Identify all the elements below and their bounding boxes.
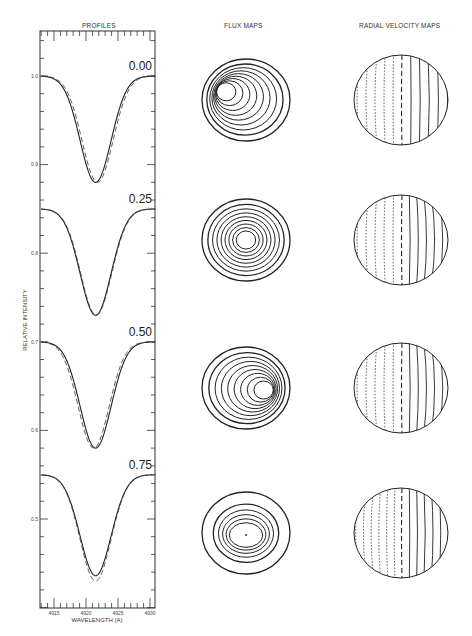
flux-contour bbox=[202, 199, 290, 281]
phase-label: 0.00 bbox=[129, 59, 153, 73]
rv-negative-contour bbox=[357, 195, 360, 285]
rv-positive-contour bbox=[439, 488, 441, 578]
rv-negative-contour bbox=[357, 55, 360, 145]
rv-negative-contour bbox=[375, 195, 377, 285]
rv-zero-line bbox=[402, 488, 403, 578]
flux-contour bbox=[208, 204, 284, 275]
rv-positive-contour bbox=[439, 343, 443, 433]
rv-disk-outline bbox=[354, 488, 448, 578]
profiles-frame bbox=[40, 31, 155, 608]
flux-contour bbox=[254, 381, 273, 399]
rv-zero-line bbox=[402, 343, 403, 433]
rv-negative-contour bbox=[375, 343, 377, 433]
flux-maps bbox=[202, 59, 290, 574]
rv-zero-line bbox=[402, 195, 403, 285]
rv-negative-contour bbox=[384, 55, 385, 145]
profile-dashed-line bbox=[41, 76, 155, 182]
phase-label: 0.25 bbox=[129, 192, 153, 206]
flux-contour bbox=[236, 231, 255, 249]
flux-map bbox=[202, 199, 290, 281]
flux-contour bbox=[215, 357, 282, 419]
y-tick-label: 0.7 bbox=[31, 339, 38, 345]
rv-negative-contour bbox=[393, 343, 394, 433]
profile-dashed-line bbox=[41, 209, 155, 315]
flux-contour bbox=[217, 83, 236, 101]
flux-contour bbox=[225, 220, 267, 259]
rv-negative-contour bbox=[394, 488, 395, 578]
flux-contour bbox=[214, 74, 264, 121]
y-tick-label: 0.8 bbox=[31, 250, 38, 256]
profile-solid-line bbox=[41, 76, 155, 182]
phase-label: 0.50 bbox=[129, 325, 153, 339]
rv-positive-contour bbox=[417, 195, 419, 285]
flux-map bbox=[202, 59, 290, 141]
rv-positive-contour bbox=[446, 55, 448, 145]
rv-disk-outline bbox=[354, 195, 448, 285]
rv-map bbox=[354, 195, 451, 285]
rv-positive-contour bbox=[419, 55, 420, 145]
flux-contour bbox=[212, 71, 270, 125]
rv-negative-contour bbox=[356, 488, 360, 578]
x-tick-label: 4915 bbox=[48, 610, 59, 616]
x-tick-label: 4930 bbox=[144, 610, 155, 616]
rv-positive-contour bbox=[417, 488, 418, 578]
profile-dashed-line bbox=[41, 475, 155, 581]
flux-map bbox=[202, 492, 290, 574]
rv-positive-contour bbox=[439, 195, 443, 285]
rv-negative-contour bbox=[393, 55, 394, 145]
rv-negative-contour bbox=[363, 488, 366, 578]
y-axis-label: RELATIVE INTENSITY bbox=[22, 289, 28, 351]
rv-positive-contour bbox=[417, 343, 419, 433]
rv-negative-contour bbox=[393, 195, 394, 285]
rv-negative-contour bbox=[371, 488, 373, 578]
x-tick-label: 4925 bbox=[112, 610, 123, 616]
rv-positive-contour bbox=[424, 488, 425, 578]
profiles-plot: 49154920492549301.00.90.80.70.60.5WAVELE… bbox=[22, 31, 156, 623]
rv-positive-contour bbox=[424, 195, 426, 285]
rv-negative-contour bbox=[384, 195, 385, 285]
y-tick-label: 1.0 bbox=[31, 73, 38, 79]
x-tick-label: 4920 bbox=[80, 610, 91, 616]
profile-solid-line bbox=[41, 475, 155, 576]
rv-positive-contour bbox=[431, 488, 433, 578]
flux-map bbox=[202, 347, 290, 429]
y-tick-label: 0.6 bbox=[31, 427, 38, 433]
y-tick-label: 0.9 bbox=[31, 161, 38, 167]
y-tick-label: 0.5 bbox=[31, 516, 38, 522]
flux-contour bbox=[229, 224, 263, 256]
rv-positive-contour bbox=[409, 195, 410, 285]
rv-map bbox=[354, 488, 448, 578]
profile-solid-line bbox=[41, 342, 155, 448]
phase-label: 0.75 bbox=[129, 458, 153, 472]
rv-negative-contour bbox=[375, 55, 377, 145]
rv-disk-outline bbox=[354, 343, 448, 433]
flux-peak-marker bbox=[245, 534, 247, 536]
figure-canvas: 49154920492549301.00.90.80.70.60.5WAVELE… bbox=[0, 0, 472, 636]
rv-negative-contour bbox=[357, 343, 360, 433]
flux-contour bbox=[213, 209, 280, 271]
x-axis-label: WAVELENGTH (A) bbox=[71, 617, 122, 623]
rv-disk-outline bbox=[354, 55, 448, 145]
profile-dashed-line bbox=[41, 342, 155, 448]
rv-positive-contour bbox=[424, 343, 426, 433]
rv-negative-contour bbox=[379, 488, 381, 578]
rv-positive-contour bbox=[409, 343, 410, 433]
flux-contour bbox=[241, 373, 275, 405]
rv-map bbox=[354, 55, 448, 145]
rv-negative-contour bbox=[387, 488, 388, 578]
rv-negative-contour bbox=[384, 343, 385, 433]
radial-velocity-maps bbox=[354, 55, 451, 578]
profile-solid-line bbox=[41, 209, 155, 315]
rv-map bbox=[354, 343, 451, 433]
flux-contour bbox=[217, 213, 275, 267]
rv-positive-contour bbox=[437, 55, 439, 145]
rv-zero-line bbox=[402, 55, 403, 145]
rv-positive-contour bbox=[428, 55, 429, 145]
